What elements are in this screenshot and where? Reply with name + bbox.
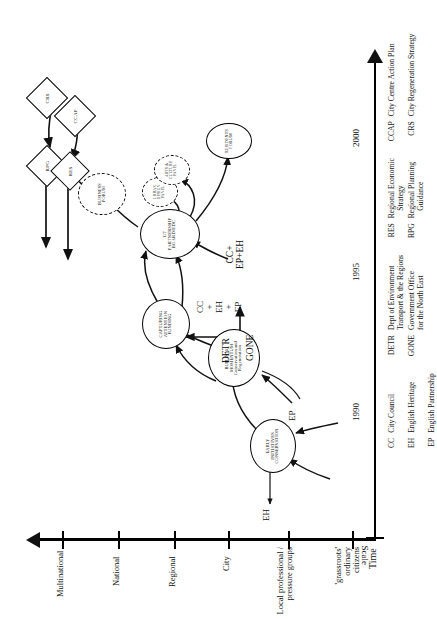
legend-abbr-res: RES xyxy=(386,219,406,239)
legend-abbr-detr: DETR xyxy=(386,331,406,357)
time-tick-1990: 1990 xyxy=(352,403,361,421)
legend-full-crs: City Regeneration Strategy xyxy=(406,33,426,118)
label-gone: GONE xyxy=(246,335,256,361)
legend-full-gone: Government Office for the North East xyxy=(406,239,426,331)
time-tick-2000: 2000 xyxy=(352,129,361,147)
legend-abbr-rpg: RPG xyxy=(406,219,426,239)
label-cc-eh-ep: CC + EH + EP xyxy=(196,301,243,313)
scale-level-regional: Regional xyxy=(168,556,177,587)
legend-abbr-ccap: CCAP xyxy=(386,117,406,142)
legend-full-rpg: Regional Planning Guidance xyxy=(406,142,426,219)
label-cc-ep-eh: CC+ EP+EH xyxy=(226,240,246,269)
label-eh-left: EH xyxy=(262,509,271,521)
legend-full-ccap: City Centre Action Plan xyxy=(386,33,406,118)
label-ep-left: EP xyxy=(288,410,297,421)
legend-full-res: Regional Economic Strategy xyxy=(386,142,406,219)
scale-axis-arrowhead xyxy=(26,532,40,548)
scale-axis-label: Scale xyxy=(360,546,369,566)
business-forum-line2: FORUM xyxy=(102,175,106,213)
arts-culture-line3: PANEL xyxy=(174,157,178,183)
node-business-forum[interactable]: BUSINESS FORUM xyxy=(78,173,126,215)
node-gt-partnership-board[interactable]: GT PARTNERSHIP BOARD/EDC xyxy=(140,209,200,259)
time-axis-line xyxy=(374,61,376,539)
legend: CC City Council DETR Dept of Environment… xyxy=(386,33,437,449)
scale-tick-multinational xyxy=(62,531,64,549)
node-capturing-attention[interactable]: CAPTURING ATTENTION FUNDING xyxy=(142,299,190,349)
node-capturing-line3: FUNDING xyxy=(168,301,172,347)
legend-abbr-ep: EP xyxy=(426,434,437,449)
legend-full-ep: English Partnership xyxy=(426,357,437,434)
legend-full-eh: English Heritage xyxy=(406,357,426,434)
time-axis-arrowhead xyxy=(367,49,383,63)
scale-level-local-professional: Local professional / pressure groups xyxy=(276,547,294,619)
policy-rpg-label: RPG xyxy=(44,161,49,172)
node-arts-culture-panel[interactable]: ARTS & CULTURE PANEL xyxy=(154,155,190,185)
policy-res-label: RES xyxy=(67,166,72,176)
legend-full-detr: Dept of Environment Transport & the Regi… xyxy=(386,239,406,331)
node-partnership-line3: BOARD/EDC xyxy=(172,211,177,257)
legend-full-cc: City Council xyxy=(386,357,406,434)
scale-tick-regional xyxy=(174,531,176,549)
policy-ccap-label: CCAP xyxy=(72,109,77,123)
node-residents-forum[interactable]: RESIDENTS FORUM xyxy=(206,123,252,159)
node-building-line4: Regeneration xyxy=(238,331,242,385)
legend-abbr-eh: EH xyxy=(406,434,426,449)
node-early-initiatives[interactable]: EARLY INITIATIVES CONSERVATION xyxy=(250,419,296,473)
time-tick-1995: 1995 xyxy=(352,263,361,281)
scale-axis-line xyxy=(40,538,376,541)
scale-level-city: City xyxy=(222,556,231,571)
scale-tick-national xyxy=(118,531,120,549)
scale-level-grassroots: 'grassroots' ordinary citizens xyxy=(334,547,361,619)
scale-level-national: National xyxy=(112,557,121,586)
residents-forum-line2: FORUM xyxy=(229,125,233,157)
legend-abbr-cc: CC xyxy=(386,434,406,449)
scale-level-multinational: Multinational xyxy=(56,551,65,597)
scale-tick-city xyxy=(228,531,230,549)
policy-crs-label: CRS xyxy=(44,93,49,103)
legend-abbr-gone: GONE xyxy=(406,331,426,357)
legend-abbr-crs: CRS xyxy=(406,117,426,142)
node-early-line3: CONSERVATION xyxy=(275,421,279,471)
label-detr: DETR xyxy=(222,338,232,363)
